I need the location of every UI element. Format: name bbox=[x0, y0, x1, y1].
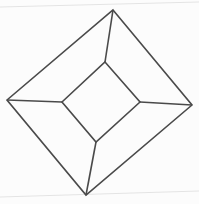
frustum-diagram bbox=[0, 0, 199, 204]
diagram-canvas bbox=[0, 0, 199, 204]
connector-edge bbox=[105, 10, 113, 62]
page-edge-line bbox=[0, 2, 199, 7]
connector-edges bbox=[7, 10, 192, 195]
page-edge-lines bbox=[0, 2, 199, 197]
connector-edge bbox=[140, 102, 192, 105]
inner-square bbox=[62, 62, 140, 142]
page-edge-line bbox=[0, 191, 199, 197]
connector-edge bbox=[7, 100, 62, 102]
outer-square bbox=[7, 10, 192, 195]
